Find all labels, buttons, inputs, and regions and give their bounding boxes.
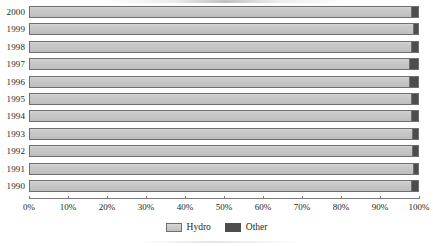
bar-row: 1992 [29, 145, 419, 157]
x-axis-tick-mark [419, 196, 420, 199]
bar-category-label: 1992 [7, 147, 25, 156]
x-axis-tick-label: 30% [138, 203, 155, 212]
bar-track [29, 128, 419, 140]
bar-segment-hydro [30, 181, 411, 191]
stacked-bar-chart: 2000199919981997199619951994199319921991… [0, 0, 433, 246]
bar-track [29, 145, 419, 157]
bar-row: 1996 [29, 76, 419, 88]
bar-track [29, 23, 419, 35]
x-axis-tick-mark [185, 196, 186, 199]
bar-segment-other [411, 111, 418, 121]
legend-label: Other [246, 223, 268, 233]
bar-track [29, 110, 419, 122]
x-axis-tick-mark [146, 196, 147, 199]
x-axis-tick-mark [29, 196, 30, 199]
x-axis-tick-label: 10% [60, 203, 77, 212]
x-axis-tick-mark [224, 196, 225, 199]
bar-segment-hydro [30, 94, 411, 104]
bar-track [29, 41, 419, 53]
bar-segment-other [412, 146, 418, 156]
bar-segment-hydro [30, 77, 409, 87]
legend-swatch-hydro-icon [166, 223, 182, 232]
bar-track [29, 58, 419, 70]
bar-segment-other [413, 24, 418, 34]
legend-label: Hydro [187, 223, 211, 233]
x-axis-tick-mark [302, 196, 303, 199]
bar-category-label: 1993 [7, 129, 25, 138]
bar-category-label: 1995 [7, 95, 25, 104]
x-axis-tick-label: 90% [372, 203, 389, 212]
bar-track [29, 180, 419, 192]
x-axis-tick-mark [263, 196, 264, 199]
bar-segment-other [413, 164, 418, 174]
bar-row: 1998 [29, 41, 419, 53]
bar-row: 1997 [29, 58, 419, 70]
bar-category-label: 1991 [7, 164, 25, 173]
cropped-title-artifact [100, 0, 350, 3]
bar-row: 1990 [29, 180, 419, 192]
bar-row: 1999 [29, 23, 419, 35]
x-axis-tick-label: 0% [23, 203, 35, 212]
bar-category-label: 1997 [7, 60, 25, 69]
bar-segment-other [409, 59, 418, 69]
bar-category-label: 1998 [7, 42, 25, 51]
bar-segment-other [411, 181, 418, 191]
bar-segment-other [411, 94, 418, 104]
x-axis-tick-label: 50% [216, 203, 233, 212]
x-axis-tick-mark [341, 196, 342, 199]
bar-segment-hydro [30, 24, 413, 34]
bar-row: 1994 [29, 110, 419, 122]
bar-category-label: 1996 [7, 77, 25, 86]
bar-category-label: 2000 [7, 8, 25, 17]
x-axis-tick-label: 80% [333, 203, 350, 212]
x-axis-tick-label: 60% [255, 203, 272, 212]
legend-item-hydro[interactable]: Hydro [166, 223, 211, 233]
bar-segment-other [409, 77, 418, 87]
bar-row: 1993 [29, 128, 419, 140]
bar-segment-other [411, 7, 418, 17]
chart-legend: HydroOther [0, 223, 433, 233]
bar-segment-hydro [30, 146, 412, 156]
bar-row: 1995 [29, 93, 419, 105]
x-axis-tick-mark [380, 196, 381, 199]
x-axis-tick-label: 40% [177, 203, 194, 212]
x-axis-tick-label: 100% [409, 203, 430, 212]
bar-segment-hydro [30, 111, 411, 121]
bar-track [29, 93, 419, 105]
bar-track [29, 163, 419, 175]
bar-track [29, 76, 419, 88]
bar-segment-hydro [30, 42, 411, 52]
x-axis-tick-label: 20% [99, 203, 116, 212]
bar-track [29, 6, 419, 18]
bar-row: 1991 [29, 163, 419, 175]
legend-item-other[interactable]: Other [225, 223, 268, 233]
bar-segment-hydro [30, 7, 411, 17]
bar-category-label: 1994 [7, 112, 25, 121]
bar-segment-hydro [30, 164, 413, 174]
bottom-crop-artifact [140, 241, 300, 243]
bar-segment-other [411, 42, 418, 52]
bar-row: 2000 [29, 6, 419, 18]
bar-segment-hydro [30, 129, 412, 139]
legend-swatch-other-icon [225, 223, 241, 232]
x-axis-tick-mark [107, 196, 108, 199]
x-axis: 0%10%20%30%40%50%60%70%80%90%100% [29, 198, 419, 199]
bar-segment-hydro [30, 59, 409, 69]
bar-category-label: 1990 [7, 182, 25, 191]
plot-area: 2000199919981997199619951994199319921991… [29, 6, 419, 198]
bar-category-label: 1999 [7, 25, 25, 34]
bar-segment-other [412, 129, 418, 139]
x-axis-tick-mark [68, 196, 69, 199]
x-axis-tick-label: 70% [294, 203, 311, 212]
